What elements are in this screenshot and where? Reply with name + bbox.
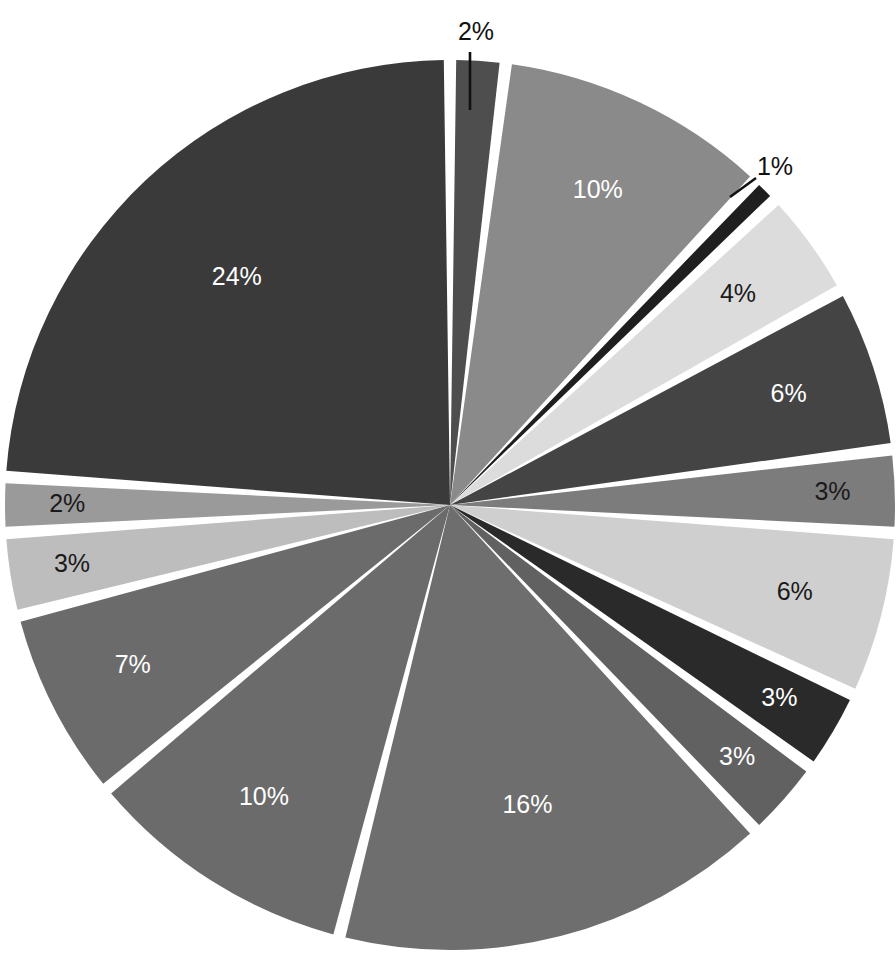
- slice-value-label: 10%: [573, 175, 623, 203]
- slice-value-label: 6%: [777, 577, 813, 605]
- pie-chart-figure: 10%4%6%3%6%3%3%16%10%7%3%2%24% 2%1%: [0, 0, 896, 977]
- slice-value-label: 3%: [719, 742, 755, 770]
- slice-value-label: 6%: [771, 379, 807, 407]
- slice-value-label: 3%: [814, 477, 850, 505]
- slice-value-label: 3%: [54, 549, 90, 577]
- slice-value-label: 2%: [49, 489, 85, 517]
- slice-value-label: 3%: [761, 683, 797, 711]
- callout-value-label: 2%: [458, 17, 494, 45]
- slice-value-label: 4%: [720, 279, 756, 307]
- slice-value-label: 24%: [212, 262, 262, 290]
- slice-value-label: 7%: [115, 650, 151, 678]
- pie-chart-svg: 10%4%6%3%6%3%3%16%10%7%3%2%24% 2%1%: [0, 0, 896, 977]
- slice-value-label: 16%: [502, 790, 552, 818]
- cropped-title-fragment: [110, 0, 790, 5]
- slice-value-label: 10%: [239, 782, 289, 810]
- callout-value-label: 1%: [757, 152, 793, 180]
- pie-slices-group: [5, 60, 895, 950]
